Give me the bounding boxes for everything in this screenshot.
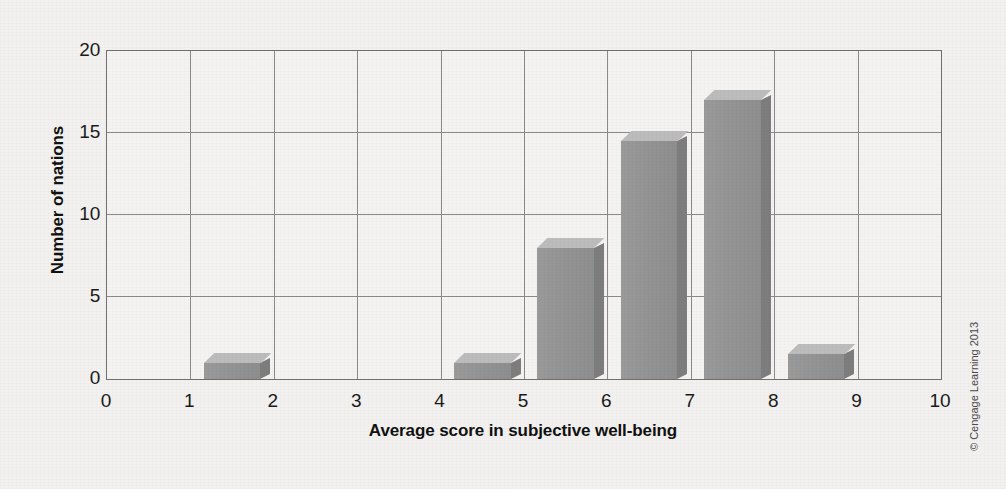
bar-front-face: [454, 363, 511, 379]
bar-front-face: [621, 141, 678, 379]
gridline-vertical: [858, 51, 859, 379]
x-tick-label: 1: [169, 390, 209, 412]
bar-side-face: [677, 136, 687, 379]
y-axis-title: Number of nations: [48, 50, 68, 350]
bar-top-face: [704, 90, 771, 100]
copyright-credit: © Cengage Learning 2013: [968, 251, 980, 451]
gridline-vertical: [524, 51, 525, 379]
x-tick-label: 8: [753, 390, 793, 412]
bar-7-8: [704, 100, 761, 379]
gridline-vertical: [774, 51, 775, 379]
bar-top-face: [454, 353, 521, 363]
bar-top-face: [621, 131, 688, 141]
bar-front-face: [788, 354, 845, 379]
gridline-horizontal: [107, 296, 941, 297]
x-tick-label: 10: [920, 390, 960, 412]
y-tick-label: 0: [56, 367, 100, 389]
bar-6-7: [621, 141, 678, 379]
bar-5-6: [537, 248, 594, 379]
x-tick-label: 0: [86, 390, 126, 412]
bar-side-face: [594, 243, 604, 379]
gridline-vertical: [441, 51, 442, 379]
bar-top-face: [204, 353, 271, 363]
bar-4-5: [454, 363, 511, 379]
x-axis-ticks: 012345678910: [106, 390, 940, 416]
bar-side-face: [844, 350, 854, 379]
bar-front-face: [204, 363, 261, 379]
bar-top-face: [537, 238, 604, 248]
gridline-vertical: [607, 51, 608, 379]
bar-front-face: [537, 248, 594, 379]
bar-top-face: [788, 344, 855, 354]
gridline-vertical: [357, 51, 358, 379]
chart-figure: 05101520 012345678910 Average score in s…: [0, 0, 1006, 489]
x-tick-label: 2: [253, 390, 293, 412]
x-tick-label: 6: [586, 390, 626, 412]
bar-1-2: [204, 363, 261, 379]
x-tick-label: 5: [503, 390, 543, 412]
gridline-vertical: [691, 51, 692, 379]
plot-area: [106, 50, 942, 380]
gridline-vertical: [190, 51, 191, 379]
x-tick-label: 3: [336, 390, 376, 412]
gridline-horizontal: [107, 132, 941, 133]
x-tick-label: 4: [420, 390, 460, 412]
gridline-horizontal: [107, 214, 941, 215]
bar-8-9: [788, 354, 845, 379]
x-tick-label: 7: [670, 390, 710, 412]
bar-front-face: [704, 100, 761, 379]
bar-side-face: [761, 95, 771, 379]
x-tick-label: 9: [837, 390, 877, 412]
gridline-vertical: [274, 51, 275, 379]
x-axis-title: Average score in subjective well-being: [106, 421, 940, 441]
